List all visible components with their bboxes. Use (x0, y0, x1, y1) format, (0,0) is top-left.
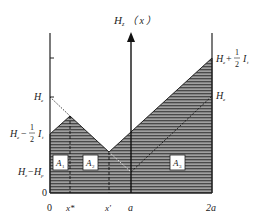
field-distribution-diagram: A 1 A 2 A 3 H z （ x ） H e H e − 1 2 I t … (0, 0, 265, 220)
arrow-up-icon (127, 32, 135, 42)
x-tick-x-star: x* (65, 203, 75, 213)
svg-text:1: 1 (30, 123, 34, 132)
svg-text:+: + (226, 53, 232, 64)
label-he-plus-half-it: H e + 1 2 I t (215, 48, 249, 69)
label-he-left: H e (33, 91, 44, 103)
x-tick-2a: 2a (206, 202, 216, 213)
label-he-minus-half-it: H e − 1 2 I t (9, 123, 44, 144)
x-tick-0: 0 (47, 202, 52, 213)
svg-text:2: 2 (235, 60, 239, 69)
label-zero-y: 0 (42, 187, 47, 198)
svg-text:p: p (40, 173, 44, 178)
x-tick-a: a (128, 202, 133, 213)
svg-text:t: t (247, 60, 249, 65)
svg-text:A: A (172, 158, 179, 168)
svg-text:e: e (223, 97, 226, 102)
svg-text:（ x ）: （ x ） (127, 15, 156, 26)
dotted-he-line-left (50, 97, 70, 116)
x-tick-x-prime: x' (104, 203, 112, 213)
svg-text:e: e (41, 98, 44, 103)
svg-text:A: A (55, 158, 62, 168)
svg-text:z: z (121, 21, 125, 27)
svg-text:2: 2 (30, 135, 34, 144)
svg-text:t: t (42, 135, 44, 140)
svg-text:A: A (85, 158, 92, 168)
label-he-right: H e (215, 90, 226, 102)
svg-text:1: 1 (235, 48, 239, 57)
region-a3-label: A 3 (170, 155, 185, 170)
label-he-minus-hp: H e − H p (17, 166, 44, 178)
svg-text:−: − (21, 128, 27, 139)
region-a1-label: A 1 (53, 155, 68, 170)
region-a2-label: A 2 (83, 155, 98, 170)
svg-text:e: e (17, 135, 20, 140)
axis-title: H z （ x ） (113, 14, 156, 27)
